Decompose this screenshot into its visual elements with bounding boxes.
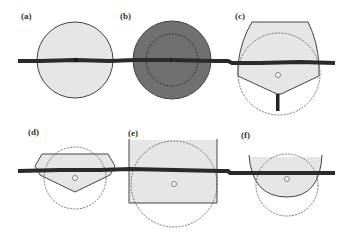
center-marker-c [276, 73, 281, 78]
center-marker-f [285, 177, 290, 182]
hull-shape-d [35, 154, 115, 192]
diagram-figure: (a) (b) (c) (d) (e) (f) [0, 0, 353, 235]
axis-marker-b [169, 58, 174, 63]
panel-label-b: (b) [120, 11, 131, 21]
panel-label-a: (a) [21, 11, 32, 21]
panel-label-c: (c) [235, 11, 245, 21]
center-marker-d [73, 176, 78, 181]
panel-d [35, 147, 115, 209]
panel-e [129, 139, 217, 227]
keel-stem-c [276, 94, 280, 111]
panel-label-f: (f) [241, 130, 250, 140]
panel-label-e: (e) [128, 128, 138, 138]
panel-c [238, 22, 320, 115]
center-marker-e [172, 182, 177, 187]
panel-f [249, 154, 322, 216]
axis-marker-a [74, 58, 79, 63]
panel-label-d: (d) [28, 127, 39, 137]
